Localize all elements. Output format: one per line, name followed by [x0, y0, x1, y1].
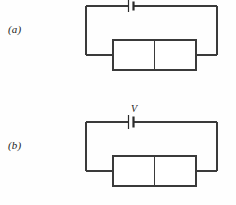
circuit-drawing	[0, 0, 236, 205]
circuit-b	[86, 115, 217, 186]
circuit-a	[86, 0, 217, 70]
pn-junction-figure: (a) p n (b) V p n	[0, 0, 236, 205]
